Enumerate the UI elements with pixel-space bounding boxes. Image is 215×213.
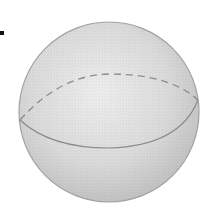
sphere	[19, 22, 199, 202]
sphere-figure	[0, 0, 215, 213]
sphere-texture	[19, 22, 199, 202]
